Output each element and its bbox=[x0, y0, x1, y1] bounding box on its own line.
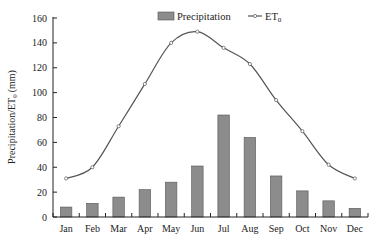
et0-marker bbox=[170, 41, 173, 44]
y-tick-label: 140 bbox=[32, 37, 47, 48]
legend-et0-marker-icon bbox=[253, 14, 256, 17]
legend: Precipitation ET0 bbox=[158, 11, 282, 24]
precipitation-bar bbox=[165, 182, 177, 217]
y-tick-label: 40 bbox=[37, 162, 47, 173]
y-tick-label: 20 bbox=[37, 187, 47, 198]
y-tick-label: 0 bbox=[42, 212, 47, 223]
et0-marker bbox=[222, 46, 225, 49]
precipitation-bar bbox=[87, 203, 99, 217]
x-tick-label: Apr bbox=[137, 223, 153, 234]
y-axis-title: Precipitation/ET0(mm) bbox=[6, 70, 19, 164]
x-tick-label: Nov bbox=[320, 223, 337, 234]
x-tick-label: Feb bbox=[85, 223, 100, 234]
precipitation-bar bbox=[113, 197, 125, 217]
et0-line bbox=[66, 32, 355, 179]
x-tick-label: Mar bbox=[110, 223, 127, 234]
precipitation-bar bbox=[60, 207, 72, 217]
et0-marker bbox=[196, 30, 199, 33]
x-tick-label: May bbox=[162, 223, 180, 234]
et0-marker bbox=[65, 177, 68, 180]
y-tick-label: 160 bbox=[32, 13, 47, 24]
y-tick-label: 60 bbox=[37, 137, 47, 148]
precipitation-bar bbox=[323, 201, 335, 217]
y-tick-label: 120 bbox=[32, 62, 47, 73]
legend-precipitation-swatch bbox=[158, 12, 174, 20]
et0-marker bbox=[275, 98, 278, 101]
x-tick-label: Jun bbox=[190, 223, 204, 234]
precipitation-bar bbox=[349, 208, 361, 217]
legend-precipitation-label: Precipitation bbox=[177, 11, 231, 22]
x-tick-label: Jul bbox=[218, 223, 230, 234]
x-tick-label: Sep bbox=[269, 223, 284, 234]
legend-et0-label: ET0 bbox=[265, 11, 282, 24]
x-axis-ticks: JanFebMarAprMayJunJulAugSepOctNovDec bbox=[53, 213, 368, 234]
et0-marker bbox=[117, 125, 120, 128]
chart: 020406080100120140160 JanFebMarAprMayJun… bbox=[0, 0, 381, 240]
et0-marker bbox=[327, 163, 330, 166]
precipitation-bar bbox=[244, 137, 256, 217]
et0-marker bbox=[353, 177, 356, 180]
et0-markers bbox=[65, 30, 357, 180]
x-tick-label: Jan bbox=[59, 223, 72, 234]
precipitation-bar bbox=[297, 191, 309, 217]
precipitation-bar bbox=[218, 115, 230, 217]
precipitation-bar bbox=[139, 190, 151, 217]
precipitation-bar bbox=[270, 176, 282, 217]
y-tick-label: 100 bbox=[32, 87, 47, 98]
y-tick-label: 80 bbox=[37, 112, 47, 123]
et0-marker bbox=[248, 62, 251, 65]
x-tick-label: Oct bbox=[295, 223, 310, 234]
precipitation-bars bbox=[60, 115, 360, 217]
x-tick-label: Dec bbox=[347, 223, 364, 234]
et0-marker bbox=[301, 130, 304, 133]
precipitation-bar bbox=[192, 166, 204, 217]
x-tick-label: Aug bbox=[241, 223, 258, 234]
et0-marker bbox=[143, 82, 146, 85]
et0-marker bbox=[91, 166, 94, 169]
